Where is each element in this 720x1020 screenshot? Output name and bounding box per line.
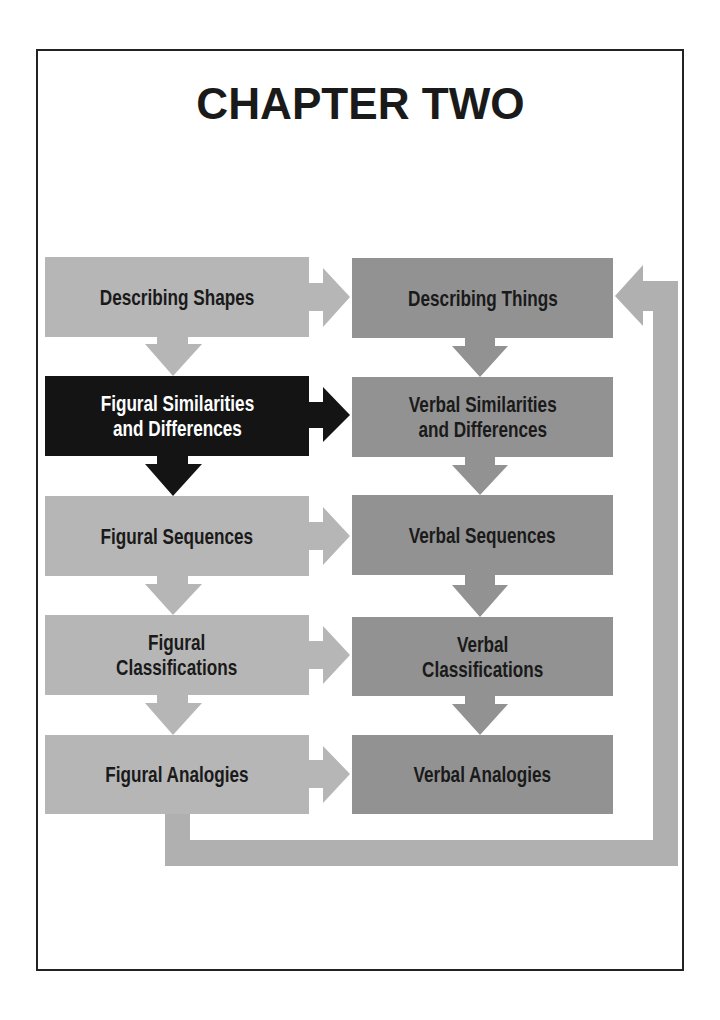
box-figural-classifications: Figural Classifications	[45, 615, 309, 695]
box-figural-similarities-differences: Figural Similarities and Differences	[45, 376, 309, 456]
box-label: Verbal Classifications	[422, 632, 543, 682]
down-arrow-figural-3	[145, 575, 202, 615]
box-figural-sequences: Figural Sequences	[45, 496, 309, 576]
down-arrow-verbal-1	[452, 338, 508, 377]
down-arrow-verbal-3	[452, 575, 508, 617]
right-arrow-row-3	[309, 507, 350, 565]
box-label: Figural Analogies	[105, 762, 248, 787]
right-arrow-row-4	[309, 626, 350, 684]
right-arrow-row-5	[309, 746, 350, 803]
box-verbal-classifications: Verbal Classifications	[352, 617, 613, 696]
down-arrow-verbal-2	[452, 457, 508, 495]
box-verbal-sequences: Verbal Sequences	[352, 495, 613, 575]
box-label: Verbal Similarities and Differences	[409, 392, 557, 442]
box-describing-things: Describing Things	[352, 258, 613, 338]
box-label: Figural Similarities and Differences	[100, 391, 254, 441]
box-label: Verbal Sequences	[409, 523, 556, 548]
right-arrow-row-2	[309, 387, 350, 442]
box-describing-shapes: Describing Shapes	[45, 257, 309, 337]
box-label: Figural Sequences	[101, 524, 254, 549]
box-label: Describing Things	[408, 286, 558, 311]
box-verbal-similarities-differences: Verbal Similarities and Differences	[352, 377, 613, 457]
right-arrow-row-1	[309, 268, 350, 327]
down-arrow-verbal-4	[452, 696, 508, 735]
box-label: Verbal Analogies	[414, 762, 552, 787]
box-label: Figural Classifications	[116, 630, 237, 680]
box-verbal-analogies: Verbal Analogies	[352, 735, 613, 814]
down-arrow-figural-2	[145, 455, 202, 496]
box-figural-analogies: Figural Analogies	[45, 735, 309, 814]
box-label: Describing Shapes	[100, 285, 255, 310]
down-arrow-figural-1	[145, 336, 202, 376]
down-arrow-figural-4	[145, 695, 202, 735]
